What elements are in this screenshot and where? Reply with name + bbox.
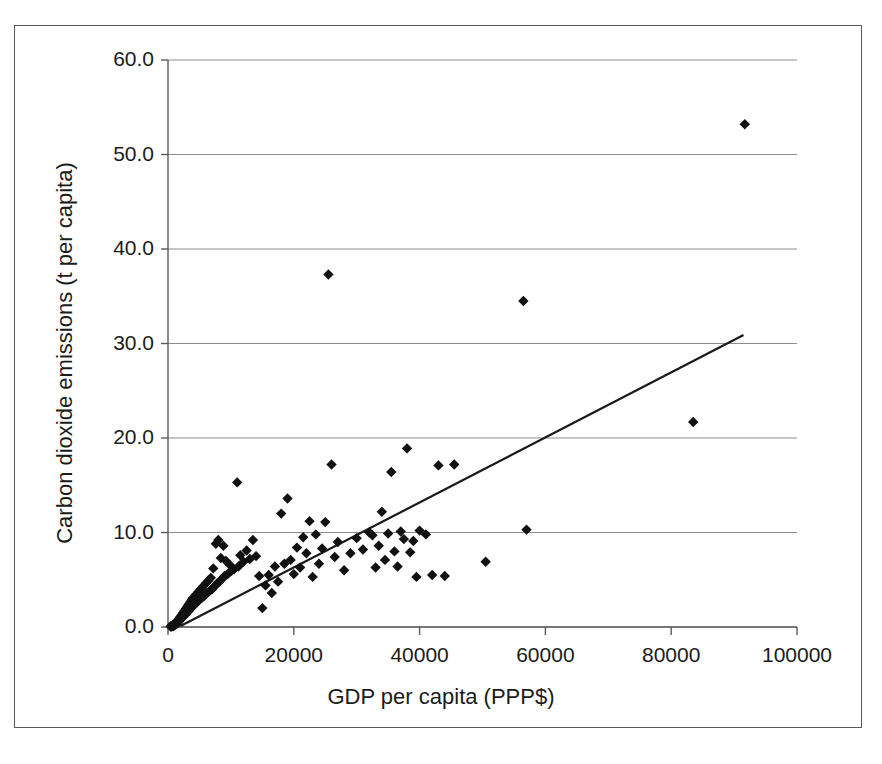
gridlines-group [168, 60, 797, 627]
y-axis-title: Carbon dioxide emissions (t per capita) [52, 73, 78, 633]
x-tick-label: 80000 [611, 643, 731, 667]
data-point [329, 552, 339, 562]
data-point [405, 547, 415, 557]
data-point [232, 477, 242, 487]
x-tick-label: 0 [108, 643, 228, 667]
axis-ticks-group [161, 60, 797, 635]
data-point [304, 516, 314, 526]
y-tick-label: 40.0 [78, 236, 154, 260]
data-point [386, 467, 396, 477]
data-point [295, 562, 305, 572]
x-tick-label: 100000 [737, 643, 857, 667]
data-point [345, 548, 355, 558]
data-point [411, 572, 421, 582]
x-axis-title: GDP per capita (PPP$) [0, 684, 882, 710]
data-point [323, 269, 333, 279]
data-point [408, 536, 418, 546]
y-tick-label: 30.0 [78, 331, 154, 355]
chart-page: 0.010.020.030.040.050.060.0 020000400006… [0, 0, 882, 764]
data-point [276, 508, 286, 518]
data-point [320, 517, 330, 527]
data-point [518, 296, 528, 306]
data-point [267, 588, 277, 598]
data-point [292, 542, 302, 552]
data-point [254, 571, 264, 581]
data-point [433, 460, 443, 470]
data-point [383, 528, 393, 538]
data-point [380, 555, 390, 565]
data-point [298, 532, 308, 542]
data-point [427, 570, 437, 580]
data-point [358, 544, 368, 554]
x-tick-label: 60000 [485, 643, 605, 667]
data-point [392, 561, 402, 571]
data-point [402, 443, 412, 453]
y-tick-label: 10.0 [78, 520, 154, 544]
data-point [326, 459, 336, 469]
y-tick-label: 60.0 [78, 47, 154, 71]
y-tick-label: 0.0 [78, 614, 154, 638]
data-point [314, 558, 324, 568]
y-tick-label: 50.0 [78, 142, 154, 166]
data-point [339, 565, 349, 575]
data-point [270, 561, 280, 571]
data-point [311, 529, 321, 539]
data-point [352, 533, 362, 543]
x-tick-label: 40000 [360, 643, 480, 667]
data-point [260, 580, 270, 590]
x-tick-label: 20000 [234, 643, 354, 667]
data-point [740, 119, 750, 129]
data-point [307, 572, 317, 582]
y-tick-label: 20.0 [78, 425, 154, 449]
data-point [208, 563, 218, 573]
data-points-group [165, 119, 750, 632]
data-point [248, 535, 258, 545]
data-point [440, 571, 450, 581]
data-point [449, 459, 459, 469]
data-point [377, 507, 387, 517]
data-point [374, 541, 384, 551]
data-point [521, 524, 531, 534]
data-point [389, 546, 399, 556]
data-point [688, 417, 698, 427]
data-point [282, 493, 292, 503]
data-point [257, 603, 267, 613]
data-point [480, 557, 490, 567]
data-point [301, 548, 311, 558]
data-point [370, 562, 380, 572]
